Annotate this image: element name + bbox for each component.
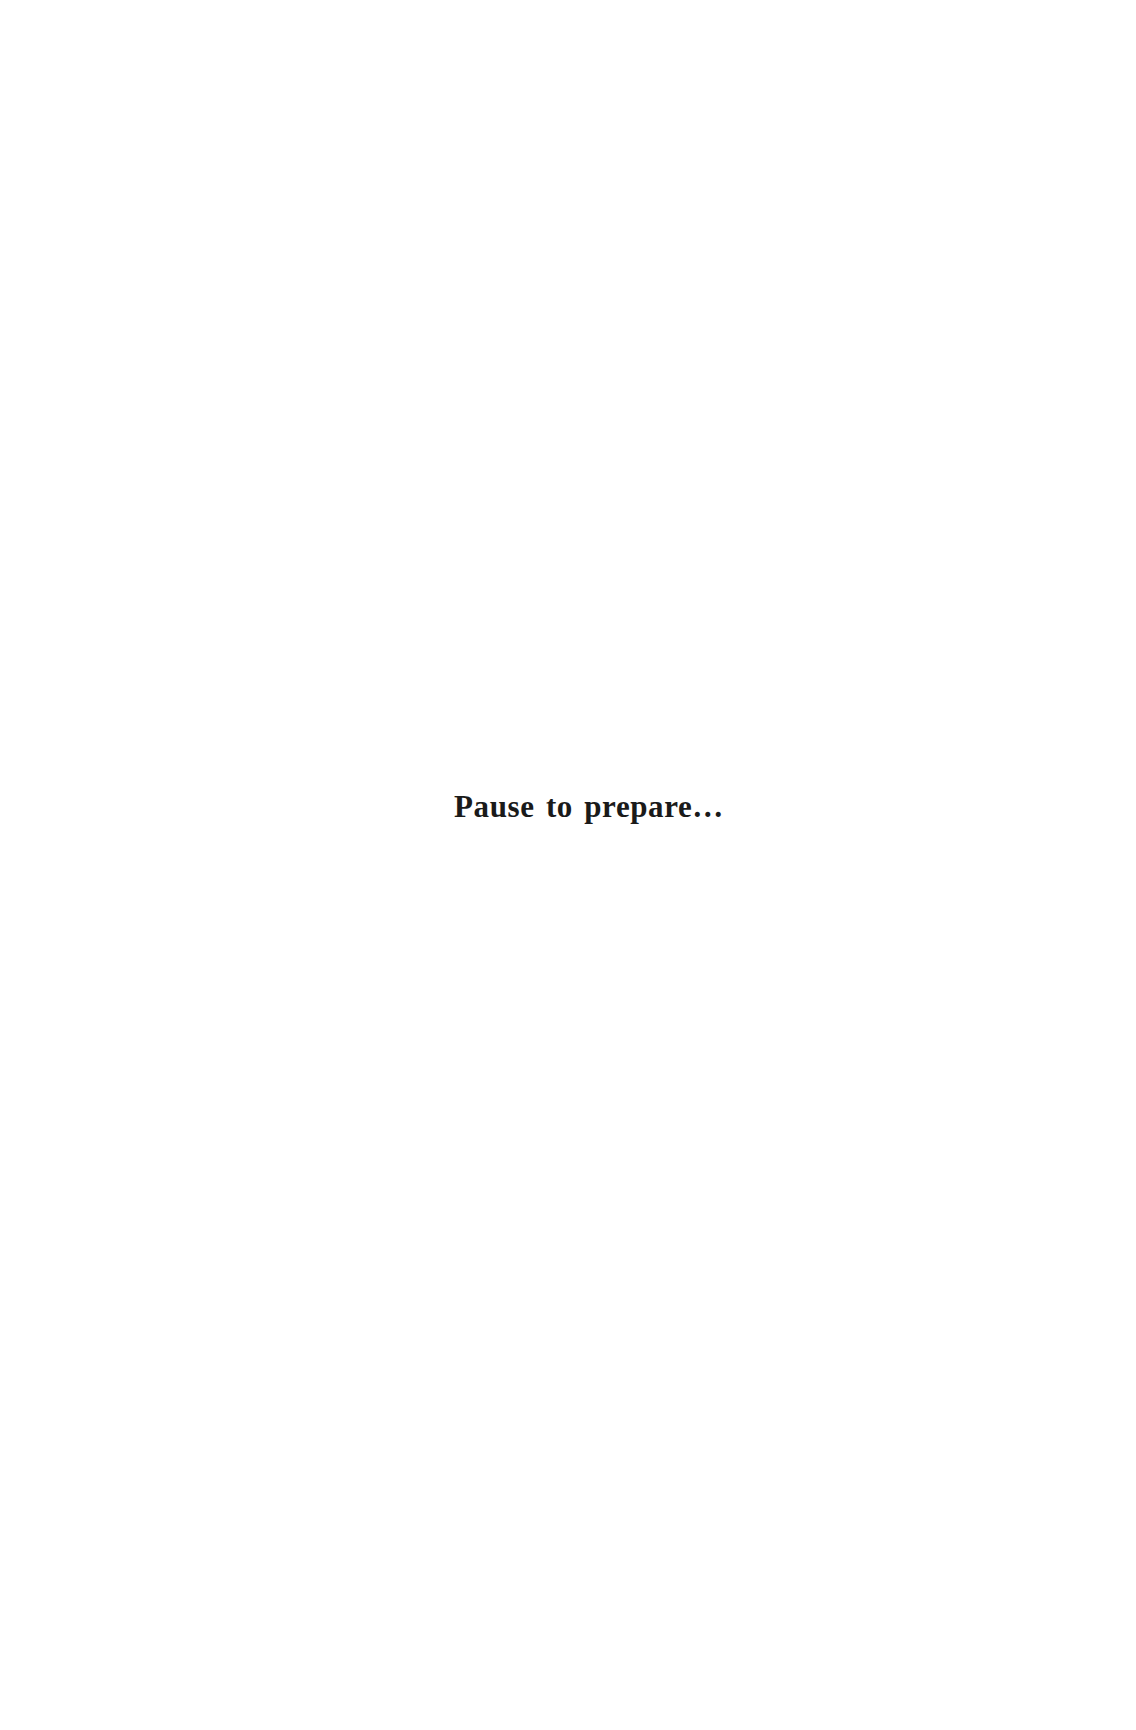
document-page: Pause to prepare… bbox=[0, 0, 1136, 1730]
break-text: Pause to prepare… bbox=[454, 787, 724, 827]
section-break-line: Pause to prepare… bbox=[0, 787, 1136, 832]
